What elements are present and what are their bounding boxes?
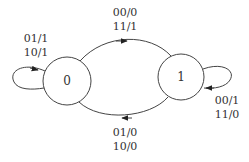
transition-label-1-1-b: 11/0 bbox=[215, 108, 240, 121]
state-1-label: 1 bbox=[177, 70, 185, 84]
transition-label-1-1-a: 00/1 bbox=[215, 94, 240, 107]
self-loop-0-path bbox=[13, 67, 45, 89]
transition-0-to-1: 00/0 11/1 bbox=[80, 6, 171, 61]
transition-label-0-1-b: 11/1 bbox=[113, 20, 138, 33]
transition-1-to-0: 01/0 10/0 bbox=[79, 97, 168, 153]
state-diagram: 0 1 01/1 10/1 00/0 11/1 00/1 11/0 01/0 1… bbox=[0, 0, 249, 162]
arc-0-1-path bbox=[80, 39, 171, 61]
transition-label-0-0-b: 10/1 bbox=[24, 46, 49, 59]
self-loop-1-path bbox=[203, 66, 231, 88]
transition-label-1-0-b: 10/0 bbox=[113, 140, 138, 153]
state-1: 1 bbox=[158, 54, 204, 100]
transition-label-1-0-a: 01/0 bbox=[113, 126, 138, 139]
state-0: 0 bbox=[43, 57, 91, 105]
transition-label-0-1-a: 00/0 bbox=[113, 6, 138, 19]
state-0-label: 0 bbox=[63, 74, 71, 88]
arc-1-0-path bbox=[79, 97, 168, 115]
transition-1-to-1: 00/1 11/0 bbox=[203, 66, 239, 121]
transition-label-0-0-a: 01/1 bbox=[24, 32, 49, 45]
